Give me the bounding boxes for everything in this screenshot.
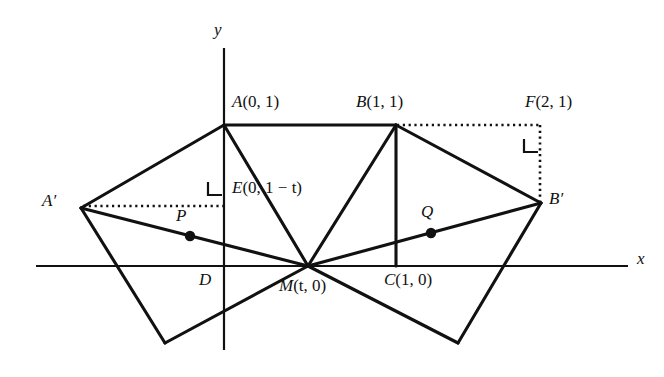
point-coords-E: (0, 1 − t) xyxy=(242,178,302,197)
point-label-F: F(2, 1) xyxy=(525,93,572,110)
point-label-M: M(t, 0) xyxy=(279,277,326,294)
point-label-E: E(0, 1 − t) xyxy=(232,179,302,196)
point-letter-M: M xyxy=(279,276,293,295)
point-coords-C: (1, 0) xyxy=(395,270,432,289)
segment-B-prime-to-bottom-right xyxy=(458,203,541,343)
point-label-Q: Q xyxy=(421,203,433,220)
point-coords-F: (2, 1) xyxy=(535,92,572,111)
point-coords-A: (0, 1) xyxy=(242,92,279,111)
x-axis-label: x xyxy=(637,250,645,267)
point-letter-C: C xyxy=(384,270,395,289)
point-letter-B-prime: B′ xyxy=(549,189,563,208)
point-letter-A: A xyxy=(232,92,242,111)
segment-A-prime-to-bottom-left xyxy=(81,208,165,343)
segment-B-to-B-prime xyxy=(396,125,541,203)
point-letter-P: P xyxy=(176,206,186,225)
point-label-P: P xyxy=(176,207,186,224)
right-angle-at-E-icon xyxy=(208,182,222,195)
point-coords-M: (t, 0) xyxy=(293,276,326,295)
point-letter-F: F xyxy=(525,92,535,111)
point-letter-E: E xyxy=(232,178,242,197)
geometry-figure: x y A(0, 1) B(1, 1) F(2, 1) E(0, 1 − t) … xyxy=(0,0,664,377)
right-angle-at-F-icon xyxy=(524,139,538,152)
solid-edges-group xyxy=(81,125,541,343)
point-label-A-prime: A′ xyxy=(42,192,56,209)
point-dot-P xyxy=(185,231,195,241)
point-letter-D: D xyxy=(199,270,211,289)
point-label-D: D xyxy=(199,271,211,288)
point-letter-A-prime: A′ xyxy=(42,191,56,210)
y-axis-label: y xyxy=(214,21,222,38)
segment-bottom-right-to-M xyxy=(308,266,458,343)
point-dot-Q xyxy=(426,228,436,238)
geometry-canvas xyxy=(0,0,664,377)
point-label-C: C(1, 0) xyxy=(384,271,432,288)
point-label-A: A(0, 1) xyxy=(232,93,279,110)
point-label-B-prime: B′ xyxy=(549,190,563,207)
point-coords-B: (1, 1) xyxy=(366,92,403,111)
point-letter-B: B xyxy=(356,92,366,111)
point-dots-group xyxy=(185,228,436,241)
point-letter-Q: Q xyxy=(421,202,433,221)
point-label-B: B(1, 1) xyxy=(356,93,403,110)
segment-A-to-A-prime xyxy=(81,125,224,208)
